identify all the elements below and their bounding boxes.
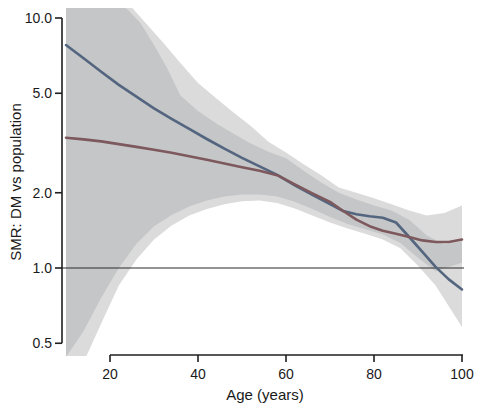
x-tick-label-20: 20	[102, 366, 118, 382]
y-tick-label-10.0: 10.0	[25, 10, 52, 26]
x-axis-title: Age (years)	[66, 386, 464, 403]
confidence-bands-layer	[66, 0, 462, 399]
y-tick-label-2.0: 2.0	[33, 185, 53, 201]
y-tick-label-1.0: 1.0	[33, 260, 53, 276]
y-tick-labels: 10.05.02.01.00.5	[25, 10, 52, 351]
y-axis-title: SMR: DM vs population	[7, 103, 24, 261]
x-tick-label-60: 60	[278, 366, 294, 382]
x-tick-label-100: 100	[450, 366, 474, 382]
chart-canvas: 20406080100 10.05.02.01.00.5	[0, 0, 480, 414]
x-tick-labels: 20406080100	[102, 366, 474, 382]
y-tick-label-5.0: 5.0	[33, 85, 53, 101]
x-tick-label-80: 80	[366, 366, 382, 382]
x-tick-label-40: 40	[190, 366, 206, 382]
confidence-band-overlap-dark	[66, 0, 462, 357]
chart-figure: 20406080100 10.05.02.01.00.5 Age (years)…	[0, 0, 480, 414]
y-tick-label-0.5: 0.5	[33, 335, 53, 351]
